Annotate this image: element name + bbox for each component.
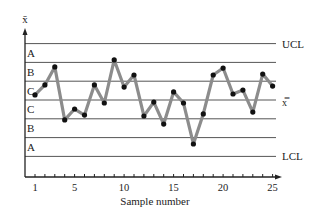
data-point xyxy=(171,89,176,94)
data-point xyxy=(82,112,87,117)
x-tick-label: 25 xyxy=(267,182,278,193)
data-point xyxy=(240,87,245,92)
data-point xyxy=(230,91,235,96)
zone-label: A xyxy=(27,47,35,59)
control-limit-labels: UCLx̿LCL xyxy=(282,38,304,163)
data-point-markers xyxy=(32,57,275,146)
x-tick-label: 1 xyxy=(32,182,37,193)
data-point xyxy=(32,92,37,97)
zone-label: B xyxy=(27,66,34,78)
x-tick-label: 15 xyxy=(168,182,179,193)
ucl-label: UCL xyxy=(282,38,304,50)
data-point xyxy=(122,84,127,89)
data-point xyxy=(112,57,117,62)
y-axis-arrow-icon xyxy=(23,28,28,35)
data-point xyxy=(52,64,57,69)
data-point xyxy=(161,121,166,126)
y-axis-label: x̄ xyxy=(22,13,28,25)
control-chart: ABCCBA UCLx̿LCL 1510152025 x̄ Sample num… xyxy=(0,0,316,219)
zone-label: B xyxy=(27,122,34,134)
x-axis-arrow-icon xyxy=(275,175,282,180)
data-point xyxy=(221,65,226,70)
data-point xyxy=(211,72,216,77)
x-tick-label: 10 xyxy=(119,182,130,193)
data-point xyxy=(260,71,265,76)
data-point xyxy=(151,99,156,104)
data-point xyxy=(42,82,47,87)
zone-label: A xyxy=(27,141,35,153)
data-point xyxy=(141,113,146,118)
data-point xyxy=(72,106,77,111)
x-axis-tick-labels: 1510152025 xyxy=(32,182,277,193)
lcl-label: LCL xyxy=(282,150,303,162)
data-point xyxy=(92,82,97,87)
data-point xyxy=(102,100,107,105)
data-point xyxy=(250,109,255,114)
data-point xyxy=(62,117,67,122)
data-point xyxy=(181,100,186,105)
x-tick-label: 20 xyxy=(218,182,229,193)
data-point xyxy=(270,83,275,88)
data-point xyxy=(131,72,136,77)
control-limit-lines xyxy=(25,44,276,157)
zone-label: C xyxy=(27,103,34,115)
x-axis-label: Sample number xyxy=(120,195,190,207)
x-tick-label: 5 xyxy=(72,182,77,193)
center-line-label: x̿ xyxy=(282,97,290,108)
data-point xyxy=(191,141,196,146)
data-point xyxy=(201,111,206,116)
